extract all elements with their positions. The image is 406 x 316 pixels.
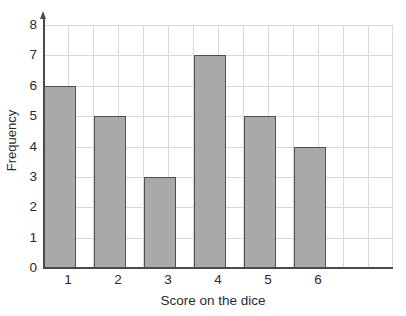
y-tick-label: 8 xyxy=(3,18,37,32)
y-tick-label: 6 xyxy=(3,79,37,93)
x-tick-label: 4 xyxy=(193,273,243,287)
x-tick-label: 5 xyxy=(243,273,293,287)
y-axis-arrow-icon xyxy=(40,11,46,19)
y-tick-label: 1 xyxy=(3,231,37,245)
x-axis-title: Score on the dice xyxy=(43,293,383,308)
y-tick-label: 7 xyxy=(3,48,37,62)
bar-category-6 xyxy=(294,147,326,269)
bar-category-5 xyxy=(244,116,276,268)
y-tick-label: 2 xyxy=(3,200,37,214)
x-tick-label: 3 xyxy=(143,273,193,287)
x-tick-label: 6 xyxy=(293,273,343,287)
gridline-vertical xyxy=(343,25,344,268)
bar-category-1 xyxy=(44,86,76,268)
bar-category-2 xyxy=(94,116,126,268)
y-axis-title: Frequency xyxy=(4,96,19,186)
plot-area xyxy=(43,25,393,268)
x-tick-label: 2 xyxy=(93,273,143,287)
gridline-vertical xyxy=(392,25,393,268)
bar-category-3 xyxy=(144,177,176,268)
y-tick-label: 0 xyxy=(3,261,37,275)
x-tick-label: 1 xyxy=(43,273,93,287)
x-axis-line xyxy=(43,267,393,269)
bar-chart-figure: 8 7 6 5 4 3 2 1 0 1 2 3 4 5 6 Frequency … xyxy=(0,0,406,316)
bar-category-4 xyxy=(194,55,226,268)
gridline-vertical xyxy=(368,25,369,268)
y-axis-line xyxy=(43,18,45,269)
